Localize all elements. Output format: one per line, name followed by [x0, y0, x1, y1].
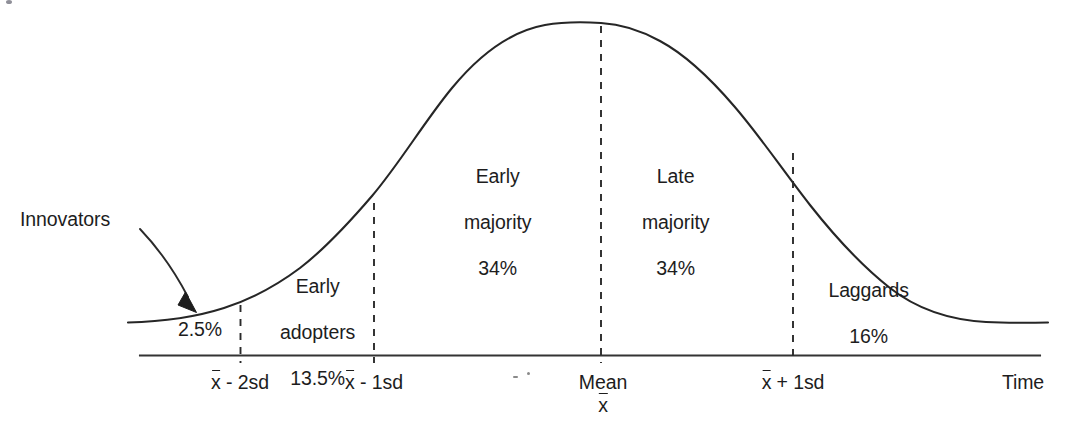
laggards-percent: 16%: [849, 325, 888, 347]
tick-minus-1sd-rest: - 1sd: [355, 371, 403, 393]
late-majority-line1: Late: [657, 165, 695, 187]
early-adopters-percent: 13.5%: [290, 367, 345, 389]
late-majority-percent: 34%: [656, 257, 695, 279]
time-label: Time: [1002, 371, 1044, 393]
laggards-line1: Laggards: [828, 279, 909, 301]
tick-minus-2sd-rest: - 2sd: [221, 371, 269, 393]
x-axis-title: Time: [1002, 371, 1044, 394]
early-majority-line1: Early: [476, 165, 520, 187]
x-bar-symbol: x: [345, 371, 355, 394]
late-majority-label: Late majority 34%: [621, 142, 710, 303]
scan-artifact-speck-b: [527, 372, 530, 375]
tick-plus-1sd-rest: + 1sd: [771, 371, 824, 393]
early-majority-line2: majority: [464, 211, 531, 233]
innovators-annotation-label: Innovators: [20, 208, 110, 231]
early-adopters-label: Early adopters 13.5%: [259, 252, 355, 413]
bell-curve-drawing: [0, 0, 1079, 441]
laggards-label: Laggards 16%: [807, 256, 909, 371]
tick-label-minus-2sd: x - 2sd: [211, 371, 269, 394]
adoption-curve-figure: Innovators 2.5% Early adopters 13.5% Ear…: [0, 0, 1079, 441]
early-adopters-line1: Early: [296, 275, 340, 297]
tick-label-minus-1sd: x - 1sd: [345, 371, 403, 394]
early-majority-percent: 34%: [478, 257, 517, 279]
innovators-arrow-shaft: [140, 229, 188, 297]
tick-label-mean: Meanx: [579, 371, 627, 417]
late-majority-line2: majority: [642, 211, 709, 233]
x-bar-symbol: x: [598, 394, 608, 417]
mean-word: Mean: [579, 371, 627, 393]
early-majority-label: Early majority 34%: [443, 142, 532, 303]
x-bar-symbol: x: [211, 371, 221, 394]
early-adopters-line2: adopters: [280, 321, 355, 343]
innovators-arrow-head: [178, 292, 197, 313]
innovators-percent-label: 2.5%: [178, 318, 222, 341]
x-bar-symbol: x: [762, 371, 772, 394]
tick-label-plus-1sd: x + 1sd: [762, 371, 825, 394]
scan-artifact-speck-a: [513, 376, 518, 378]
